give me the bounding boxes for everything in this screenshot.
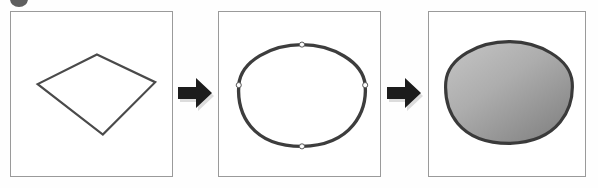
step-arrow-2-to-3 <box>386 74 424 114</box>
figure-root <box>0 0 598 188</box>
filled-gradient-shape <box>446 42 573 144</box>
arrow-body <box>387 78 421 108</box>
panel-filled-shape <box>428 11 586 177</box>
control-point-bottom[interactable] <box>299 144 304 149</box>
control-point-top[interactable] <box>299 42 304 47</box>
quadrilateral-outline <box>38 54 156 134</box>
control-point-right[interactable] <box>363 83 368 88</box>
smoothed-curve-outline <box>239 45 366 147</box>
arrow-body <box>178 78 212 108</box>
control-point-left[interactable] <box>236 83 241 88</box>
panel-smoothed-curve <box>218 11 381 177</box>
arrow-right-icon <box>386 74 424 114</box>
arrow-right-icon <box>177 74 215 114</box>
clipped-circle-artifact-icon <box>10 0 28 7</box>
panel-2-canvas <box>219 12 380 176</box>
panel-3-canvas <box>429 12 585 176</box>
panel-1-canvas <box>11 12 172 176</box>
panel-polygon-outline <box>10 11 173 177</box>
step-arrow-1-to-2 <box>177 74 215 114</box>
